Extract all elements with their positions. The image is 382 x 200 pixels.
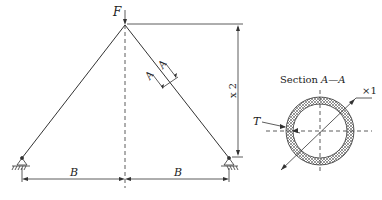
section-view: SectionA—A ×1 T xyxy=(253,74,377,172)
section-cut-label-right: A xyxy=(155,58,169,71)
right-pin-support-icon xyxy=(221,157,238,171)
thickness-label: T xyxy=(253,115,262,128)
thickness-arrow-icon xyxy=(280,124,286,129)
diameter-label: ×1 xyxy=(362,85,377,96)
section-title: SectionA—A xyxy=(280,74,346,85)
right-member xyxy=(125,25,229,158)
left-member xyxy=(22,25,125,158)
span-dimension xyxy=(22,168,229,182)
truss-diagram: F x 2 A A xyxy=(0,0,382,200)
truss-members xyxy=(22,25,229,158)
section-cut-label-left: A xyxy=(142,69,156,82)
load-label: F xyxy=(112,5,122,19)
section-title-prefix: Section xyxy=(280,74,319,85)
load-arrow-icon xyxy=(123,10,127,25)
section-title-cut: A—A xyxy=(320,74,345,85)
height-dimension xyxy=(127,24,243,157)
left-span-label: B xyxy=(69,166,78,179)
height-label: x 2 xyxy=(227,83,238,98)
right-span-label: B xyxy=(173,166,182,179)
left-pin-support-icon xyxy=(12,157,30,171)
